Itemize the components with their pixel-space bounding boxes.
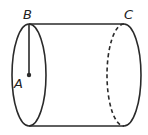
label-B: B (23, 7, 32, 22)
point-A-dot (27, 73, 31, 77)
label-A: A (13, 76, 23, 91)
label-C: C (124, 7, 134, 22)
right-base-hidden-arc (107, 24, 124, 126)
right-base-visible-arc (124, 24, 141, 126)
cylinder-diagram: B A C (0, 0, 148, 135)
